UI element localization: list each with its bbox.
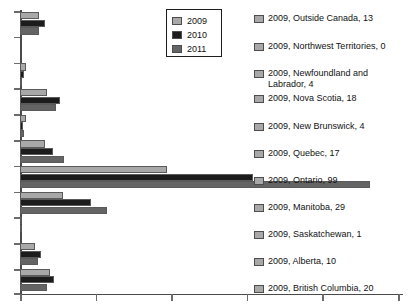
bar-2010-british-columbia (20, 276, 54, 283)
category-labels-column: 2009, Outside Canada, 132009, Northwest … (254, 0, 418, 294)
bar-2009-quebec (20, 140, 45, 147)
bar-2010-new-brunswick (20, 122, 23, 129)
y-axis-tick (14, 37, 20, 39)
legend-entry-2011[interactable]: 2011 (172, 42, 221, 55)
category-label-item[interactable]: 2009, New Brunswick, 4 (254, 121, 418, 132)
bar-2011-newfoundland-and-labrador (20, 79, 22, 86)
bar-2009-manitoba (20, 192, 63, 199)
bar-2009-newfoundland-and-labrador (20, 63, 26, 70)
category-label-item[interactable]: 2009, Ontario, 99 (254, 175, 418, 186)
x-axis-tick (20, 294, 22, 301)
category-label-item[interactable]: 2009, Manitoba, 29 (254, 202, 418, 213)
legend-entry-2010[interactable]: 2010 (172, 28, 221, 41)
category-label-item[interactable]: 2009, Alberta, 10 (254, 256, 418, 267)
category-swatch-icon (254, 43, 264, 51)
bar-2010-nova-scotia (20, 97, 60, 104)
bar-2009-outside-canada (20, 12, 39, 19)
bar-2009-alberta (20, 243, 35, 250)
year-legend: 200920102011 (166, 9, 222, 57)
category-swatch-icon (254, 204, 264, 212)
category-swatch-icon (254, 123, 264, 131)
category-swatch-icon (254, 150, 264, 158)
horizontal-bar-chart: 200920102011 2009, Outside Canada, 13200… (0, 0, 418, 306)
bar-2011-alberta (20, 258, 38, 265)
bar-2010-saskatchewan (20, 225, 22, 232)
x-axis-tick (96, 294, 98, 301)
legend-entry-2009[interactable]: 2009 (172, 14, 221, 27)
category-swatch-icon (254, 70, 264, 78)
bar-2009-new-brunswick (20, 115, 26, 122)
category-label-item[interactable]: 2009, Quebec, 17 (254, 148, 418, 159)
legend-swatch-icon (172, 31, 182, 39)
category-label-text: 2009, Saskatchewan, 1 (268, 229, 362, 240)
legend-label: 2011 (187, 44, 206, 54)
bar-2011-new-brunswick (20, 130, 24, 137)
legend-swatch-icon (172, 17, 182, 25)
legend-label: 2009 (187, 16, 207, 26)
x-axis-tick (322, 294, 324, 301)
category-label-text: 2009, Alberta, 10 (268, 256, 336, 267)
bar-2010-alberta (20, 251, 41, 258)
category-label-item[interactable]: 2009, Nova Scotia, 18 (254, 93, 418, 104)
x-axis-tick (171, 294, 173, 301)
bar-2010-manitoba (20, 199, 91, 206)
category-label-text: 2009, British Columbia, 20 (268, 283, 374, 294)
bar-2009-saskatchewan (20, 217, 22, 224)
category-swatch-icon (254, 15, 264, 23)
x-axis-tick (247, 294, 249, 301)
category-swatch-icon (254, 95, 264, 103)
bar-2009-british-columbia (20, 269, 50, 276)
bar-2009-ontario (20, 166, 167, 173)
x-axis-tick (398, 294, 400, 301)
legend-swatch-icon (172, 45, 182, 53)
bar-2009-nova-scotia (20, 89, 47, 96)
bar-2010-outside-canada (20, 20, 45, 27)
bar-2011-british-columbia (20, 284, 47, 291)
category-swatch-icon (254, 177, 264, 185)
category-label-text: 2009, New Brunswick, 4 (268, 121, 365, 132)
category-swatch-icon (254, 285, 264, 293)
category-label-text: 2009, Newfoundland and Labrador, 4 (268, 68, 368, 90)
category-label-text: 2009, Manitoba, 29 (268, 202, 345, 213)
bar-2010-quebec (20, 148, 53, 155)
bar-2011-nova-scotia (20, 104, 56, 111)
category-label-item[interactable]: 2009, Northwest Territories, 0 (254, 41, 418, 52)
bar-2010-newfoundland-and-labrador (20, 71, 24, 78)
legend-label: 2010 (187, 30, 207, 40)
bar-2010-ontario (20, 174, 253, 181)
category-swatch-icon (254, 231, 264, 239)
category-label-text: 2009, Ontario, 99 (268, 175, 338, 186)
category-label-item[interactable]: 2009, Outside Canada, 13 (254, 13, 418, 24)
category-label-text: 2009, Nova Scotia, 18 (268, 93, 357, 104)
bar-2011-manitoba (20, 207, 107, 214)
bar-2011-quebec (20, 156, 64, 163)
category-label-item[interactable]: 2009, Saskatchewan, 1 (254, 229, 418, 240)
category-label-item[interactable]: 2009, British Columbia, 20 (254, 283, 418, 294)
category-label-item[interactable]: 2009, Newfoundland and Labrador, 4 (254, 68, 418, 90)
bar-2011-outside-canada (20, 27, 39, 34)
category-label-text: 2009, Outside Canada, 13 (268, 13, 373, 24)
category-label-text: 2009, Quebec, 17 (268, 148, 340, 159)
category-label-text: 2009, Northwest Territories, 0 (268, 41, 385, 52)
category-swatch-icon (254, 258, 264, 266)
